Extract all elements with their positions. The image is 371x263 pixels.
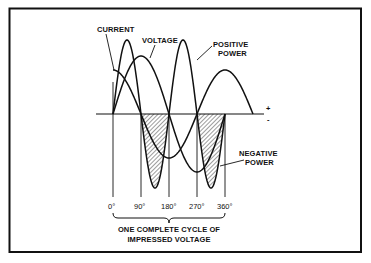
- negative-power-label-1: NEGATIVE: [239, 149, 278, 158]
- cycle-bracket: [113, 213, 225, 223]
- power-waveform-diagram: CURRENT VOLTAGE POSITIVE POWER NEGATIVE …: [0, 0, 371, 263]
- caption-line-2: IMPRESSED VOLTAGE: [127, 235, 210, 244]
- positive-power-label-1: POSITIVE: [213, 40, 248, 49]
- current-label: CURRENT: [97, 25, 135, 34]
- tick-180: 180°: [161, 202, 177, 211]
- caption-line-1: ONE COMPLETE CYCLE OF: [118, 225, 220, 234]
- positive-power-label-2: POWER: [218, 49, 247, 58]
- tick-270: 270°: [189, 202, 205, 211]
- positive-power-leader: [197, 46, 212, 60]
- tick-90: 90°: [134, 202, 145, 211]
- plus-sign: +: [266, 104, 271, 113]
- tick-360: 360°: [217, 202, 233, 211]
- negative-power-leader: [220, 160, 244, 166]
- voltage-label: VOLTAGE: [142, 36, 178, 45]
- figure-frame: [10, 9, 362, 253]
- voltage-leader: [150, 45, 155, 58]
- negative-power-label-2: POWER: [245, 158, 274, 167]
- current-leader: [106, 34, 114, 70]
- minus-sign: -: [267, 115, 270, 124]
- tick-0: 0°: [108, 202, 115, 211]
